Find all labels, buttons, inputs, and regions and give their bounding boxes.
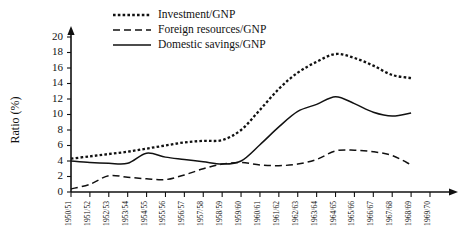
- y-axis-tick-label: 18: [52, 45, 64, 57]
- x-axis-tick-label: 1957/58: [196, 201, 205, 226]
- y-axis-tick-label: 12: [52, 92, 63, 104]
- y-axis-tick-label: 8: [58, 123, 64, 135]
- x-axis-tick-label: 1962/63: [291, 201, 300, 226]
- y-axis-tick-label: 20: [52, 30, 64, 42]
- x-axis-tick-label: 1953/54: [121, 201, 130, 226]
- x-axis-tick-label: 1968/69: [404, 201, 413, 226]
- legend: Investment/GNP Foreign resources/GNP Dom…: [113, 8, 266, 51]
- y-axis-tick-label: 16: [52, 61, 64, 73]
- legend-label-foreign-resources-gnp: Foreign resources/GNP: [158, 23, 266, 36]
- x-axis-tick-label: 1950/51: [64, 201, 73, 226]
- x-axis-tick-label: 1960/61: [253, 201, 262, 226]
- chart-container: Investment/GNP Foreign resources/GNP Dom…: [0, 0, 464, 240]
- x-axis-tick-label: 1958/59: [215, 201, 224, 226]
- y-axis: 02468101214161820 Ratio (%): [8, 26, 75, 197]
- x-axis-tick-label: 1967/68: [385, 201, 394, 226]
- x-axis-arrowhead: [449, 188, 458, 195]
- y-axis-tick-labels: 02468101214161820: [52, 30, 64, 197]
- legend-label-domestic-savings-gnp: Domestic savings/GNP: [158, 38, 266, 51]
- line-chart: Investment/GNP Foreign resources/GNP Dom…: [0, 0, 464, 240]
- legend-label-investment-gnp: Investment/GNP: [158, 8, 235, 20]
- y-axis-tick-label: 14: [52, 76, 64, 88]
- x-axis: 1950/511951/521952/531953/541954/551955/…: [64, 188, 458, 226]
- y-axis-tick-label: 6: [58, 138, 64, 150]
- x-axis-tick-label: 1963/64: [310, 201, 319, 226]
- x-axis-tick-label: 1951/52: [83, 201, 92, 226]
- x-axis-tick-label: 1964/65: [329, 201, 338, 226]
- x-axis-tick-label: 1955/56: [158, 201, 167, 226]
- x-axis-tick-label: 1954/55: [140, 201, 149, 226]
- y-axis-tick-label: 0: [58, 185, 64, 197]
- y-axis-tick-label: 2: [58, 169, 64, 181]
- x-axis-tick-label: 1956/57: [177, 201, 186, 226]
- x-axis-tick-label: 1966/67: [366, 201, 375, 226]
- y-axis-title: Ratio (%): [8, 97, 22, 144]
- x-axis-tick-label: 1952/53: [102, 201, 111, 226]
- x-axis-tick-labels: 1950/511951/521952/531953/541954/551955/…: [64, 201, 432, 226]
- series-line-foreign-resources-gnp: [71, 150, 411, 189]
- y-axis-tick-label: 4: [58, 154, 64, 166]
- x-axis-tick-label: 1965/66: [347, 201, 356, 226]
- plot-series: [71, 54, 411, 189]
- x-axis-tick-label: 1959/60: [234, 201, 243, 226]
- x-axis-tick-label: 1961/62: [272, 201, 281, 226]
- y-axis-tick-label: 10: [52, 107, 64, 119]
- x-axis-tick-label: 1969/70: [423, 201, 432, 226]
- y-axis-arrowhead: [67, 26, 74, 35]
